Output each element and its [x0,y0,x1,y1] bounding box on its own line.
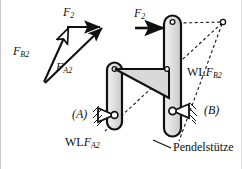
callout-leader-line [153,140,171,148]
force-triangle-group [44,27,102,83]
wl-horizontal-line [178,22,223,23]
support-b-hatching [190,103,197,124]
label-wl-fb2: WLFB2 [187,66,222,80]
label-pendelstuetze: Pendelstütze [173,141,234,153]
label-applied-force-f2: F2 [134,7,145,21]
instant-centre-pole [220,19,225,24]
pin-joint-a [111,112,118,119]
label-fb2-triangle: FB2 [13,45,29,59]
technical-figure: F2 FB2 FA2 F2 (A) (B) WLFA2 WLFB2 Pendel… [0,0,242,169]
pin-joint-b [169,107,176,114]
vector-fa2 [45,28,102,83]
pin-top-driving-link [170,20,175,25]
label-f2-triangle: F2 [63,6,74,20]
label-support-a: (A) [72,108,87,120]
pin-coupler-right [165,67,170,72]
label-wl-fa2: WLFA2 [65,136,100,150]
label-support-b: (B) [204,104,219,116]
wl-fb2-line [179,24,222,141]
label-fa2-triangle: FA2 [56,61,72,75]
mechanism-group [93,16,226,149]
